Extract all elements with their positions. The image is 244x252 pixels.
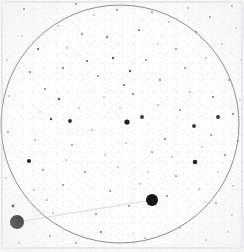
star-point xyxy=(93,14,95,16)
star-point xyxy=(139,183,141,185)
star-point xyxy=(52,212,54,214)
star-point xyxy=(66,47,68,49)
star-point xyxy=(8,95,10,97)
star-point xyxy=(159,79,161,81)
star-point xyxy=(224,154,226,156)
star-point xyxy=(119,107,120,108)
star-point xyxy=(116,9,118,11)
star-point xyxy=(201,146,202,147)
star-point xyxy=(123,84,125,86)
star-point xyxy=(81,33,83,35)
marked-object-object-b[interactable] xyxy=(146,194,158,206)
star-point xyxy=(157,43,158,44)
star-point xyxy=(232,113,234,115)
star-point xyxy=(145,59,147,61)
star-point xyxy=(103,96,104,97)
star-point xyxy=(138,29,140,31)
star-point xyxy=(117,166,119,168)
star-point xyxy=(187,7,189,9)
star-point xyxy=(12,205,15,208)
star-point xyxy=(205,57,207,59)
star-point xyxy=(129,70,131,72)
star-point xyxy=(205,239,207,241)
star-point xyxy=(21,35,22,36)
star-point xyxy=(65,159,66,160)
star-point xyxy=(78,107,79,108)
star-point xyxy=(124,119,129,124)
star-point xyxy=(179,109,181,111)
star-point xyxy=(57,25,59,27)
star-point xyxy=(209,16,211,18)
star-point xyxy=(109,190,111,192)
star-point xyxy=(58,98,60,100)
star-point xyxy=(193,160,198,165)
star-point xyxy=(140,115,144,119)
star-point xyxy=(44,88,46,90)
star-point xyxy=(18,242,20,244)
star-point xyxy=(189,91,191,93)
star-point xyxy=(157,104,159,106)
star-point xyxy=(23,8,25,10)
star-point xyxy=(212,96,214,98)
star-point xyxy=(132,93,134,95)
star-point xyxy=(184,67,186,69)
star-point xyxy=(42,169,44,171)
star-point xyxy=(106,36,108,38)
star-point xyxy=(128,205,130,207)
star-point xyxy=(231,5,233,7)
star-point xyxy=(221,43,223,45)
star-point xyxy=(239,99,240,100)
star-point xyxy=(33,189,35,191)
star-point xyxy=(240,59,241,60)
star-point xyxy=(144,237,146,239)
star-point xyxy=(34,139,36,141)
star-point xyxy=(75,3,77,5)
star-point xyxy=(27,159,31,163)
star-point xyxy=(5,177,7,179)
star-point xyxy=(97,75,99,77)
star-point xyxy=(231,214,233,216)
star-point xyxy=(164,138,166,140)
star-point xyxy=(147,171,148,172)
star-field-plot xyxy=(0,0,244,252)
star-point xyxy=(71,144,73,146)
star-point xyxy=(125,142,126,143)
star-point xyxy=(235,27,237,29)
star-point xyxy=(171,156,172,157)
star-point xyxy=(227,231,229,233)
star-point xyxy=(62,184,64,186)
star-point xyxy=(75,242,77,244)
star-point xyxy=(175,175,177,177)
star-point xyxy=(228,79,230,81)
star-point xyxy=(95,213,97,215)
star-point xyxy=(46,199,48,201)
star-point xyxy=(217,171,218,172)
finder-chart xyxy=(0,0,244,252)
star-point xyxy=(166,195,168,197)
star-point xyxy=(100,231,102,233)
star-point xyxy=(216,115,220,119)
star-point xyxy=(49,235,51,237)
marked-object-object-a[interactable] xyxy=(10,215,24,229)
star-point xyxy=(151,151,153,153)
star-point xyxy=(168,21,170,23)
plate-background xyxy=(0,0,244,252)
star-point xyxy=(232,185,234,187)
star-point xyxy=(37,48,39,50)
star-point xyxy=(39,111,40,112)
star-point xyxy=(104,154,106,156)
star-point xyxy=(6,59,8,61)
star-point xyxy=(62,67,64,69)
star-point xyxy=(210,134,212,136)
star-point xyxy=(175,48,177,50)
star-point xyxy=(151,11,153,13)
star-point xyxy=(112,57,114,59)
star-point xyxy=(84,171,86,173)
star-point xyxy=(50,118,52,120)
star-point xyxy=(86,60,88,62)
star-point xyxy=(68,119,72,123)
star-point xyxy=(192,124,196,128)
star-point xyxy=(198,188,200,190)
star-point xyxy=(7,131,9,133)
star-point xyxy=(91,129,93,131)
